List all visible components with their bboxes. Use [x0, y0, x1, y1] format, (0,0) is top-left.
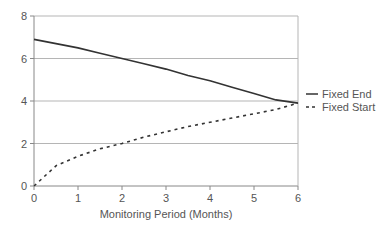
series-fixed-end: [34, 39, 298, 103]
series-fixed-start: [34, 103, 298, 186]
line-chart: 02468 0123456 Monitoring Period (Months)…: [0, 0, 387, 226]
y-tick-label: 4: [21, 95, 27, 107]
x-tick-label: 6: [295, 192, 301, 204]
y-tick-label: 2: [21, 138, 27, 150]
x-axis-ticks: 0123456: [31, 186, 301, 204]
legend-label: Fixed Start: [322, 101, 375, 113]
legend-label: Fixed End: [322, 88, 372, 100]
legend-item-fixed-end: Fixed End: [306, 88, 372, 100]
x-tick-label: 1: [75, 192, 81, 204]
x-tick-label: 3: [163, 192, 169, 204]
x-tick-label: 5: [251, 192, 257, 204]
x-tick-label: 4: [207, 192, 213, 204]
y-tick-label: 8: [21, 10, 27, 22]
y-tick-label: 6: [21, 53, 27, 65]
data-series: [34, 39, 298, 186]
legend: Fixed End Fixed Start: [306, 88, 375, 113]
legend-item-fixed-start: Fixed Start: [306, 101, 375, 113]
x-tick-label: 2: [119, 192, 125, 204]
x-tick-label: 0: [31, 192, 37, 204]
gridlines: [34, 16, 298, 144]
y-axis-ticks: 02468: [21, 10, 34, 192]
x-axis-title: Monitoring Period (Months): [100, 208, 233, 220]
y-tick-label: 0: [21, 180, 27, 192]
